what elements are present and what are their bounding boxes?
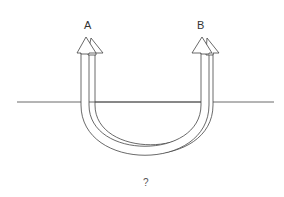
label-b: B [197,19,204,31]
u-tube-diagram: A B ? [0,0,284,197]
u-arrow-front-band [81,53,209,155]
label-a: A [84,19,92,31]
question-mark-label: ? [143,177,149,188]
